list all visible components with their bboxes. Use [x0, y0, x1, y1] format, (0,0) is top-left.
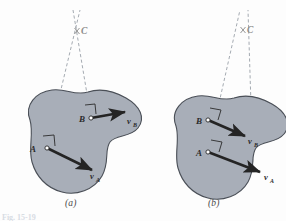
- instant-center-label-a: C: [81, 26, 88, 36]
- figure-canvas: C A B v B v A: [0, 0, 286, 221]
- svg-text:A: A: [95, 177, 100, 183]
- rigid-body-a: [28, 90, 141, 194]
- svg-text:v: v: [264, 172, 268, 182]
- svg-text:v: v: [90, 171, 94, 181]
- svg-text:v: v: [127, 116, 131, 126]
- svg-text:A: A: [269, 178, 274, 184]
- panel-caption-a: (a): [65, 198, 77, 208]
- svg-text:B: B: [253, 142, 258, 148]
- svg-text:B: B: [132, 122, 137, 128]
- velocity-label-b-A: v A: [264, 172, 274, 184]
- point-marker-b-A: [206, 150, 210, 154]
- svg-text:v: v: [248, 136, 252, 146]
- point-marker-a-A: [45, 146, 49, 150]
- point-marker-b-B: [206, 118, 210, 122]
- point-label-b-B: B: [195, 116, 202, 126]
- figure-root: C A B v B v A: [0, 0, 286, 221]
- panel-caption-b: (b): [208, 198, 220, 208]
- point-label-b-A: A: [195, 148, 202, 158]
- point-label-a-A: A: [29, 144, 36, 154]
- point-label-a-B: B: [78, 114, 85, 124]
- panel-b: C A B v B v A: [174, 10, 286, 199]
- instant-center-marker-b: [241, 27, 246, 33]
- figure-number-label: Fig. 15-19: [2, 213, 36, 221]
- instant-center-label-b: C: [247, 25, 254, 35]
- panel-a: C A B v B v A: [28, 10, 141, 193]
- point-marker-a-B: [89, 116, 93, 120]
